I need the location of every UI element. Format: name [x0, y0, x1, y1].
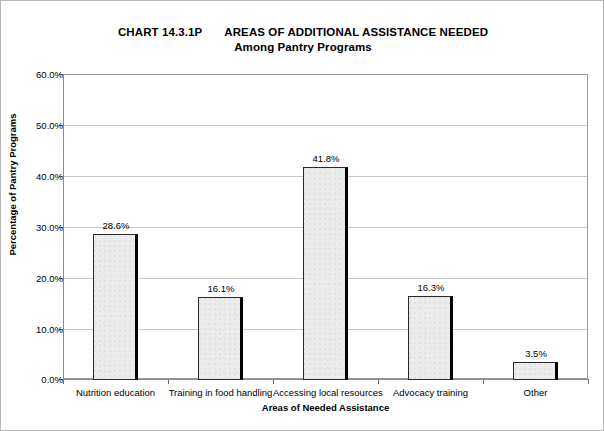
chart-title-row: CHART 14.3.1PAREAS OF ADDITIONAL ASSISTA… [1, 23, 604, 40]
x-tick-mark-4 [483, 380, 484, 384]
x-tick-mark-2 [273, 380, 274, 384]
y-tick-label-0: 0.0% [15, 374, 63, 385]
bar-value-nutrition-education: 28.6% [85, 220, 147, 231]
chart-title-block: CHART 14.3.1PAREAS OF ADDITIONAL ASSISTA… [1, 23, 604, 55]
x-category-label-accessing-local-resources: Accessing local resources [273, 387, 378, 398]
chart-number-label: CHART 14.3.1P [118, 26, 202, 38]
bar-value-advocacy-training: 16.3% [400, 282, 462, 293]
y-tick-label-60: 60.0% [15, 69, 63, 80]
bar-accessing-local-resources [303, 167, 348, 380]
y-axis-line [63, 74, 64, 380]
chart-subtitle: Among Pantry Programs [1, 40, 604, 55]
bar-nutrition-education [93, 234, 138, 380]
y-tick-label-30: 30.0% [15, 222, 63, 233]
y-tick-label-20: 20.0% [15, 273, 63, 284]
bar-training-in-food-handling [198, 297, 243, 380]
x-tick-mark-5 [588, 380, 589, 384]
y-tick-label-50: 50.0% [15, 120, 63, 131]
bar-advocacy-training [408, 296, 453, 380]
chart-container: CHART 14.3.1PAREAS OF ADDITIONAL ASSISTA… [0, 0, 604, 431]
y-tick-label-40: 40.0% [15, 171, 63, 182]
x-category-label-training-in-food-handling: Training in food handling [168, 387, 273, 398]
x-category-label-advocacy-training: Advocacy training [378, 387, 483, 398]
x-tick-mark-3 [378, 380, 379, 384]
bar-value-training-in-food-handling: 16.1% [190, 283, 252, 294]
x-tick-mark-1 [168, 380, 169, 384]
bar-value-other: 3.5% [505, 348, 567, 359]
x-category-label-nutrition-education: Nutrition education [63, 387, 168, 398]
x-category-label-other: Other [483, 387, 588, 398]
y-axis-title: Percentage of Pantry Programs [7, 100, 18, 270]
chart-title-main: AREAS OF ADDITIONAL ASSISTANCE NEEDED [224, 26, 488, 38]
x-axis-title: Areas of Needed Assistance [63, 402, 588, 413]
bar-value-accessing-local-resources: 41.8% [295, 153, 357, 164]
x-tick-mark-0 [63, 380, 64, 384]
bar-other [513, 362, 558, 380]
y-tick-label-10: 10.0% [15, 324, 63, 335]
gridline-50 [64, 125, 587, 126]
